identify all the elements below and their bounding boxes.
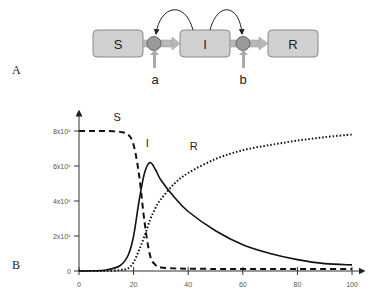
- y-axis-ticks: 02x10⁶4x10⁶6x10⁶8x10⁶: [53, 128, 79, 275]
- y-tick-label: 4x10⁶: [53, 198, 71, 205]
- curve-r: [79, 135, 352, 272]
- y-tick-label: 0: [67, 268, 71, 275]
- sir-chart: 02x10⁶4x10⁶6x10⁶8x10⁶ 020406080100 SIR: [0, 0, 378, 295]
- x-axis-ticks: 020406080100: [77, 267, 358, 288]
- y-tick-label: 6x10⁶: [53, 163, 71, 170]
- y-tick-label: 8x10⁶: [53, 128, 71, 135]
- curve-label: S: [114, 111, 121, 123]
- y-tick-label: 2x10⁶: [53, 233, 71, 240]
- x-tick-label: 100: [346, 281, 358, 288]
- x-tick-label: 40: [184, 281, 192, 288]
- curve-label: R: [190, 140, 198, 152]
- x-tick-label: 80: [294, 281, 302, 288]
- curve-label: I: [146, 137, 149, 149]
- curve-i: [79, 162, 352, 271]
- curve-labels: SIR: [114, 111, 198, 153]
- x-tick-label: 20: [130, 281, 138, 288]
- x-tick-label: 0: [77, 281, 81, 288]
- x-tick-label: 60: [239, 281, 247, 288]
- curve-s: [79, 131, 352, 269]
